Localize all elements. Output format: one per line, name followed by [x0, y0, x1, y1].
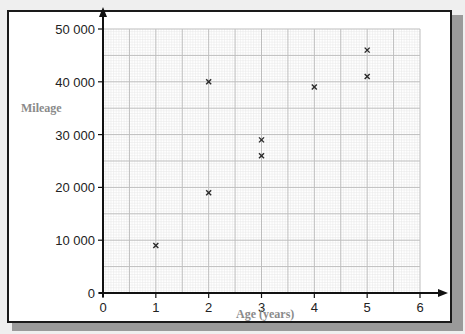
x-axis-title: Age (years): [236, 307, 294, 321]
x-axis-arrow-icon: [438, 289, 448, 297]
y-tick-label: 30 000: [55, 128, 95, 143]
y-tick-label: 0: [88, 286, 95, 301]
x-tick-label: 6: [416, 300, 423, 315]
x-tick-label: 5: [364, 300, 371, 315]
page: 0123456010 00020 00030 00040 00050 000 M…: [0, 0, 465, 334]
scatter-chart: 0123456010 00020 00030 00040 00050 000 M…: [0, 0, 465, 334]
x-tick-label: 4: [311, 300, 318, 315]
y-tick-label: 50 000: [55, 22, 95, 37]
y-axis-title: Mileage: [21, 101, 62, 115]
x-tick-label: 2: [205, 300, 212, 315]
y-tick-label: 40 000: [55, 75, 95, 90]
y-tick-label: 10 000: [55, 233, 95, 248]
y-axis-arrow-icon: [99, 7, 107, 17]
y-tick-label: 20 000: [55, 180, 95, 195]
x-tick-label: 0: [99, 300, 106, 315]
x-tick-label: 1: [152, 300, 159, 315]
